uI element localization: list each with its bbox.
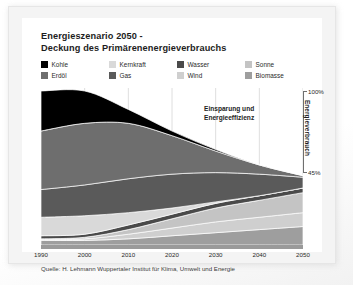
legend-item-biomasse: Biomasse	[245, 70, 313, 81]
source-caption: Quelle: H. Lehmann Wuppertaler Institut …	[41, 265, 326, 272]
right-axis: 100% 45% Energieverbrauch	[303, 88, 337, 245]
x-tick-2000: 2000	[78, 251, 92, 258]
savings-annotation: Einsparung und Energieeffizienz	[204, 104, 304, 122]
title-line-1: Energieszenario 2050 -	[41, 31, 143, 41]
right-axis-tick-100	[303, 91, 307, 92]
legend-label-sonne: Sonne	[256, 61, 275, 68]
legend-row-bottom: Erdöl Gas Wind Biomasse	[41, 70, 313, 81]
x-tick-2050: 2050	[296, 251, 310, 258]
right-axis-label-45: 45%	[308, 169, 320, 176]
legend-label-wasser: Wasser	[188, 61, 210, 68]
right-axis-tick-45	[303, 172, 307, 173]
x-tick-2030: 2030	[209, 251, 223, 258]
legend-swatch-erdoel	[41, 72, 48, 79]
legend-item-erdoel: Erdöl	[41, 70, 109, 81]
legend-swatch-biomasse	[245, 72, 252, 79]
x-axis-labels: 1990200020102020203020402050	[41, 251, 319, 263]
figure-canvas: Energieszenario 2050 - Deckung des Primä…	[22, 18, 322, 252]
legend-item-sonne: Sonne	[245, 59, 313, 70]
legend-item-kernkraft: Kernkraft	[109, 59, 177, 70]
x-tick-2040: 2040	[252, 251, 266, 258]
legend-label-erdoel: Erdöl	[52, 72, 67, 79]
x-tick-2010: 2010	[121, 251, 135, 258]
x-tick-1990: 1990	[34, 251, 48, 258]
legend-swatch-kohle	[41, 61, 48, 68]
right-axis-label-100: 100%	[308, 88, 324, 95]
title-line-2: Deckung des Primärenenergieverbrauchs	[41, 43, 301, 55]
annotation-line-2: Energieeffizienz	[204, 113, 304, 122]
chart-legend: Kohle Kernkraft Wasser Sonne	[41, 59, 313, 83]
legend-label-gas: Gas	[120, 72, 132, 79]
legend-item-kohle: Kohle	[41, 59, 109, 70]
legend-item-gas: Gas	[109, 70, 177, 81]
legend-swatch-gas	[109, 72, 116, 79]
right-axis-title: Energieverbrauch	[304, 100, 311, 156]
legend-swatch-kernkraft	[109, 61, 116, 68]
legend-item-wasser: Wasser	[177, 59, 245, 70]
x-tick-2020: 2020	[165, 251, 179, 258]
legend-label-biomasse: Biomasse	[256, 72, 284, 79]
legend-item-wind: Wind	[177, 70, 245, 81]
x-axis-bar	[41, 245, 303, 249]
annotation-line-1: Einsparung und	[204, 104, 304, 113]
legend-label-kohle: Kohle	[52, 61, 69, 68]
legend-swatch-sonne	[245, 61, 252, 68]
legend-row-top: Kohle Kernkraft Wasser Sonne	[41, 59, 313, 70]
legend-label-kernkraft: Kernkraft	[120, 61, 146, 68]
page-title: Energieszenario 2050 - Deckung des Primä…	[41, 31, 301, 54]
figure-card: Energieszenario 2050 - Deckung des Primä…	[8, 6, 336, 264]
legend-label-wind: Wind	[188, 72, 203, 79]
legend-swatch-wasser	[177, 61, 184, 68]
screenshot-frame: Energieszenario 2050 - Deckung des Primä…	[0, 0, 353, 285]
legend-swatch-wind	[177, 72, 184, 79]
